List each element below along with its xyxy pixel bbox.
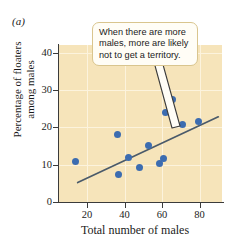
y-axis-title-line-2: among males [23, 20, 36, 160]
x-axis-title: Total number of males [40, 223, 230, 238]
x-axis-tick-label: 60 [149, 209, 175, 220]
y-axis-tick-label: 0 [28, 196, 52, 207]
y-axis-tick [53, 202, 59, 203]
y-axis-title-line-1: Percentage of floaters [11, 20, 24, 160]
x-axis-tick [125, 203, 126, 208]
y-axis-line [58, 44, 59, 203]
data-point [115, 171, 122, 178]
y-axis-tick [53, 165, 59, 166]
x-axis-tick [87, 203, 88, 208]
x-axis-tick [200, 203, 201, 208]
callout-box: When there are more males, more are like… [92, 22, 198, 66]
data-point [114, 131, 121, 138]
x-axis-tick-label: 40 [112, 209, 138, 220]
figure-panel-a: (a) 010203040 20406080 Percentage of flo… [0, 0, 231, 246]
data-point [125, 154, 132, 161]
y-axis-tick [53, 90, 59, 91]
x-axis-tick [162, 203, 163, 208]
y-axis-tick-label: 10 [28, 159, 52, 170]
x-axis-tick-label: 20 [74, 209, 100, 220]
y-axis-tick [53, 53, 59, 54]
y-axis-title: Percentage of floaters among males [11, 20, 36, 160]
x-axis-tick-label: 80 [187, 209, 213, 220]
callout-pointer [150, 60, 220, 140]
y-axis-tick [53, 127, 59, 128]
